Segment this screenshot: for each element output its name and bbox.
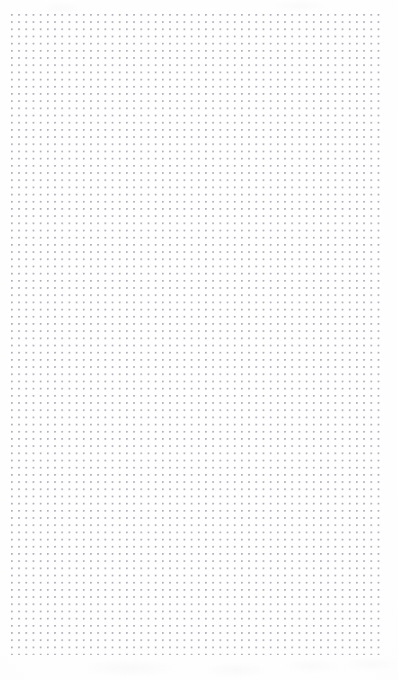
dot-grid-texture-overlay [0,0,398,680]
dot-grid-page [0,0,398,680]
